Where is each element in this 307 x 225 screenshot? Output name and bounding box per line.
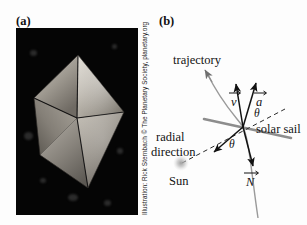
panel-a: (a) <box>0 0 150 225</box>
panel-a-label: (a) <box>16 14 31 29</box>
panel-b: (b) <box>150 0 307 225</box>
sun-label: Sun <box>169 174 189 188</box>
solar-sail-label: solar sail <box>256 122 301 136</box>
theta-upper-label: θ <box>254 107 260 119</box>
solar-sail-photo <box>16 28 138 215</box>
normal-label-group: N <box>244 171 259 189</box>
velocity-vector <box>236 84 243 127</box>
normal-label: N <box>245 175 255 189</box>
velocity-label: v <box>231 95 237 109</box>
figure-container: (a) <box>0 0 307 225</box>
trajectory-arrow <box>205 70 212 82</box>
radial-direction-label-line1: radial <box>156 130 185 144</box>
trajectory-label: trajectory <box>173 53 222 67</box>
normal-vector <box>243 127 253 166</box>
theta-lower-label: θ <box>229 138 235 150</box>
sail-geometry <box>16 28 138 215</box>
solar-sail-force-diagram: trajectory v a N θ θ solar sail radial <box>150 0 307 225</box>
acceleration-vector <box>243 83 256 127</box>
radial-direction-label-line2: direction <box>151 145 196 159</box>
